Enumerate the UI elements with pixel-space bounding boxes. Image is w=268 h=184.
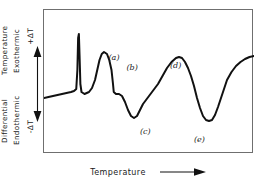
dta-figure: Temperature Differential Exothermic Endo…: [0, 0, 268, 184]
peak-label-b: (b): [127, 64, 138, 72]
y-axis-inner-label-endothermic: Endothermic: [13, 90, 20, 150]
x-axis-label-group: Temperature: [43, 164, 253, 180]
y-axis-outer-label-bottom: Differential: [1, 92, 8, 150]
plot-frame: (a) (b) (c) (d) (e): [43, 9, 253, 153]
y-axis-inner-label-exothermic: Exothermic: [13, 24, 20, 78]
peak-label-a: (a): [109, 54, 120, 62]
dta-curve-line: [44, 34, 254, 121]
y-axis-positive-delta-t-label: +ΔT: [27, 28, 35, 45]
peak-label-e: (e): [194, 136, 205, 144]
y-axis-outer-label-top: Temperature: [1, 22, 8, 78]
peak-label-d: (d): [170, 62, 181, 70]
peak-label-c: (c): [140, 128, 151, 136]
x-axis-label: Temperature: [90, 168, 146, 177]
right-arrow-icon: [160, 167, 206, 177]
